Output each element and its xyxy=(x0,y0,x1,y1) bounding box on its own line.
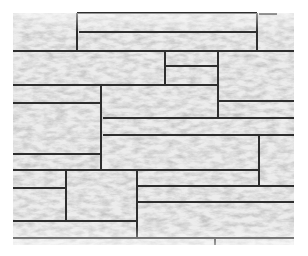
stone-wall-texture xyxy=(0,0,308,256)
stone-surface xyxy=(13,13,294,245)
stone-wall-photo: Stone wall cladding texture xyxy=(0,0,308,256)
